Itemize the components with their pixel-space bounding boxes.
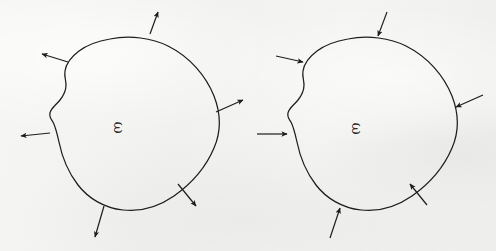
left-arrow-top [150,12,158,34]
left-figure [21,12,243,237]
left-region-label: ω [111,121,126,133]
right-arrow-bottom [330,208,340,238]
right-arrow-upper-left [276,56,303,62]
left-arrow-upper-left [42,54,68,62]
left-arrow-bottom-right [178,184,196,206]
right-figure [257,12,483,238]
right-region-label: ω [349,122,364,134]
right-arrow-top [378,12,387,36]
figure-page: ω ω [0,0,496,251]
figure-canvas [0,0,496,251]
right-arrow-bottom-right [410,184,427,205]
right-region-boundary [288,37,458,210]
left-arrow-right [216,100,243,112]
right-arrow-right [456,95,483,107]
left-arrow-left [21,133,50,136]
left-region-boundary [50,37,220,210]
left-arrow-bottom [95,206,104,237]
